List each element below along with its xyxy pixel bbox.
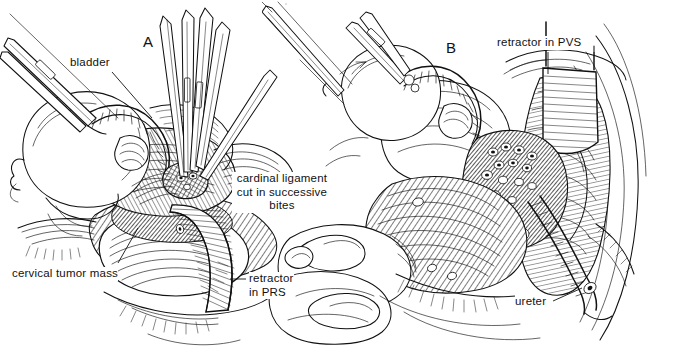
adnexal-coil xyxy=(115,136,149,171)
label-ureter: ureter xyxy=(515,295,546,309)
cut-vessel-ring-3 xyxy=(184,184,191,190)
adnexal-loop-b xyxy=(439,104,473,139)
panel-letter-b: B xyxy=(446,40,456,55)
illustration-artwork: .ln { fill:none; stroke:#111; stroke-wid… xyxy=(0,0,679,353)
label-cardinal-ligament: cardinal ligament cut in successive bite… xyxy=(232,172,332,213)
cut-vessel-lumen-1 xyxy=(179,177,182,180)
surgical-figure: .ln { fill:none; stroke:#111; stroke-wid… xyxy=(0,0,679,353)
label-cervical-tumor-mass: cervical tumor mass xyxy=(12,267,118,281)
label-retractor-in-pvs: retractor in PVS xyxy=(497,36,581,50)
cut-vessel-lumen-2 xyxy=(191,175,194,177)
label-bladder: bladder xyxy=(70,56,110,70)
label-retractor-in-prs: retractor in PRS xyxy=(249,272,294,299)
panel-letter-a: A xyxy=(143,34,153,49)
